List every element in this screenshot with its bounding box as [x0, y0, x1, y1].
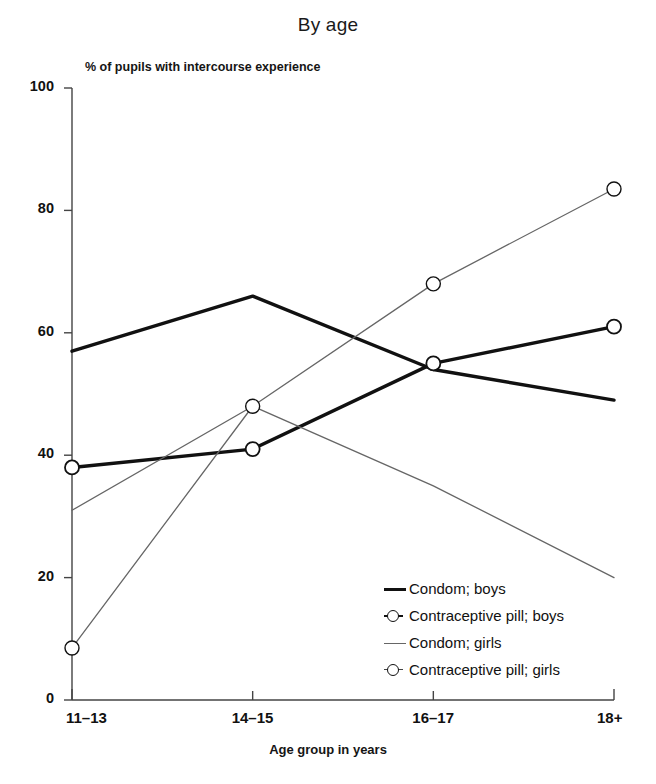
chart-figure: By age % of pupils with intercourse expe… — [0, 0, 656, 784]
y-axis-tick-label: 100 — [8, 78, 54, 94]
y-axis-tick-label: 20 — [8, 568, 54, 584]
y-axis-tick-label: 80 — [8, 200, 54, 216]
x-axis-label: Age group in years — [0, 742, 656, 757]
x-axis-ticks — [72, 689, 614, 700]
legend-label: Condom; boys — [409, 581, 506, 596]
data-point-marker — [65, 460, 79, 474]
data-point-marker — [426, 277, 440, 291]
legend-key-circle-marker-icon — [383, 606, 409, 626]
y-axis-tick-label: 40 — [8, 445, 54, 461]
legend-key-circle-marker-thin-icon — [383, 660, 409, 680]
legend-label: Condom; girls — [409, 635, 502, 650]
data-point-marker — [426, 356, 440, 370]
legend-item-pill-boys: Contraceptive pill; boys — [383, 602, 633, 629]
legend-label: Contraceptive pill; boys — [409, 608, 564, 623]
legend-item-pill-girls: Contraceptive pill; girls — [383, 656, 633, 683]
series-line — [72, 406, 614, 577]
data-point-marker — [607, 182, 621, 196]
data-point-marker — [65, 641, 79, 655]
data-point-marker — [246, 442, 260, 456]
legend-item-condom-girls: Condom; girls — [383, 629, 633, 656]
legend-key-thick-line-icon — [383, 579, 409, 599]
x-axis-tick-label: 18+ — [597, 709, 622, 726]
series-line — [72, 296, 614, 400]
legend-key-thin-line-icon — [383, 633, 409, 653]
x-axis-tick-label: 16–17 — [412, 709, 454, 726]
legend-label: Contraceptive pill; girls — [409, 662, 560, 677]
chart-legend: Condom; boys Contraceptive pill; boys Co… — [383, 575, 633, 683]
legend-item-condom-boys: Condom; boys — [383, 575, 633, 602]
y-axis-tick-label: 60 — [8, 323, 54, 339]
x-axis-tick-label: 14–15 — [232, 709, 274, 726]
data-point-marker — [246, 399, 260, 413]
x-axis-tick-label: 11–13 — [66, 709, 107, 726]
y-axis-tick-label: 0 — [8, 690, 54, 706]
y-axis-ticks — [64, 88, 72, 700]
data-point-marker — [607, 320, 621, 334]
